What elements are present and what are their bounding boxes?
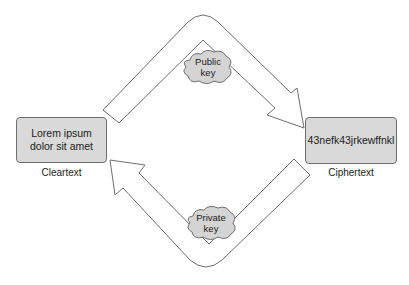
cleartext-content: Lorem ipsum dolor sit amet bbox=[27, 127, 97, 153]
ciphertext-content: 43nefk43jrkewffnkl bbox=[308, 134, 395, 147]
ciphertext-box: 43nefk43jrkewffnkl bbox=[305, 117, 397, 164]
cleartext-label: Cleartext bbox=[16, 167, 107, 178]
public-key-label: Public key bbox=[183, 56, 233, 78]
ciphertext-label: Ciphertext bbox=[305, 167, 397, 178]
cleartext-box: Lorem ipsum dolor sit amet bbox=[16, 117, 107, 163]
private-key-label: Private key bbox=[186, 212, 236, 234]
